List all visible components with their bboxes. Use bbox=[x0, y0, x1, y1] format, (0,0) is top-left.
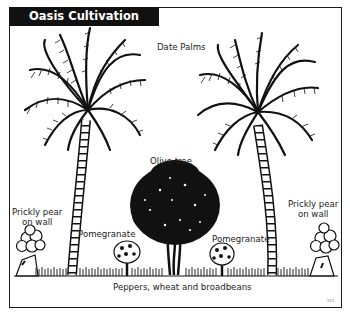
ground-crops-icon bbox=[14, 267, 338, 276]
figure-reference-number: 201 bbox=[327, 298, 335, 303]
label-date-palms: Date Palms bbox=[157, 43, 206, 53]
label-prickly-pear-left-line2: on wall bbox=[12, 218, 62, 228]
label-olive-tree: Olive tree bbox=[150, 157, 192, 167]
prickly-pear-right-icon bbox=[310, 223, 339, 276]
label-ground-crops: Peppers, wheat and broadbeans bbox=[113, 283, 252, 293]
pomegranate-right-icon bbox=[210, 243, 234, 276]
prickly-pear-left-icon bbox=[16, 225, 45, 276]
olive-tree-icon bbox=[130, 160, 220, 275]
pomegranate-left-icon bbox=[114, 241, 140, 276]
label-pomegranate-left: Pomegranate bbox=[78, 230, 135, 240]
label-prickly-pear-left: Prickly pear on wall bbox=[12, 208, 62, 228]
label-prickly-pear-right-line2: on wall bbox=[288, 210, 338, 220]
label-pomegranate-right: Pomegranate bbox=[212, 235, 269, 245]
label-prickly-pear-right: Prickly pear on wall bbox=[288, 200, 338, 220]
